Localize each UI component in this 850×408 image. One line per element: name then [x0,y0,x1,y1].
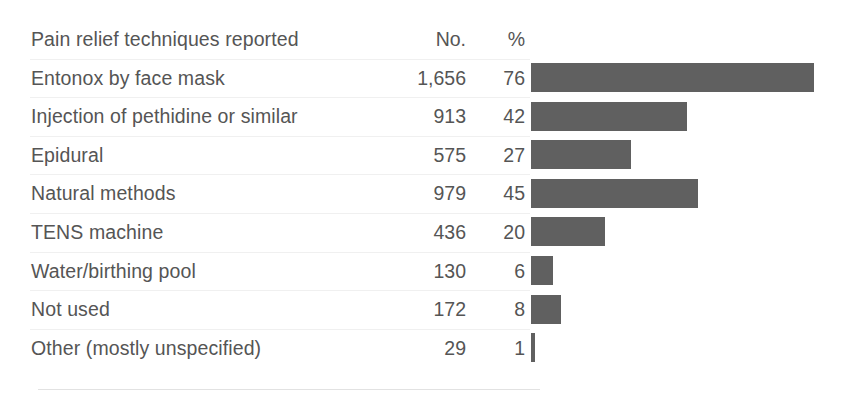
bar-injection-of-pethidine-or-similar [531,102,687,131]
row-percent: 6 [470,252,525,291]
row-percent: 1 [470,329,525,368]
row-count: 29 [346,329,466,368]
row-percent: 45 [470,174,525,213]
row-count: 979 [346,174,466,213]
table-header-row: Pain relief techniques reported No. % [0,20,850,59]
bar-water-birthing-pool [531,256,553,285]
table-row: Not used 172 8 [0,290,850,329]
row-count: 1,656 [346,59,466,98]
bar-tens-machine [531,217,605,246]
table-bottom-rule [38,389,540,390]
row-percent: 27 [470,136,525,175]
row-count: 913 [346,97,466,136]
table-row: Water/birthing pool 130 6 [0,252,850,291]
pain-relief-table-chart: Pain relief techniques reported No. % En… [0,0,850,408]
row-label: Other (mostly unspecified) [31,329,261,368]
row-percent: 42 [470,97,525,136]
header-label: Pain relief techniques reported [31,20,299,59]
row-count: 436 [346,213,466,252]
row-label: Water/birthing pool [31,252,196,291]
row-percent: 20 [470,213,525,252]
bar-epidural [531,140,631,169]
table-row: Entonox by face mask 1,656 76 [0,59,850,98]
bar-other-mostly-unspecified [531,333,535,362]
table-row: Injection of pethidine or similar 913 42 [0,97,850,136]
row-percent: 76 [470,59,525,98]
bar-not-used [531,295,561,324]
row-label: Entonox by face mask [31,59,225,98]
bar-entonox-by-face-mask [531,63,814,92]
table-row: Epidural 575 27 [0,136,850,175]
row-label: Not used [31,290,110,329]
table-row: Other (mostly unspecified) 29 1 [0,329,850,368]
row-percent: 8 [470,290,525,329]
row-label: Natural methods [31,174,176,213]
row-count: 172 [346,290,466,329]
row-count: 130 [346,252,466,291]
header-pct: % [470,20,525,59]
table-row: TENS machine 436 20 [0,213,850,252]
header-no: No. [346,20,466,59]
row-label: Injection of pethidine or similar [31,97,298,136]
table: Pain relief techniques reported No. % En… [0,20,850,367]
table-row: Natural methods 979 45 [0,174,850,213]
row-label: TENS machine [31,213,163,252]
row-label: Epidural [31,136,103,175]
bar-natural-methods [531,179,698,208]
row-count: 575 [346,136,466,175]
